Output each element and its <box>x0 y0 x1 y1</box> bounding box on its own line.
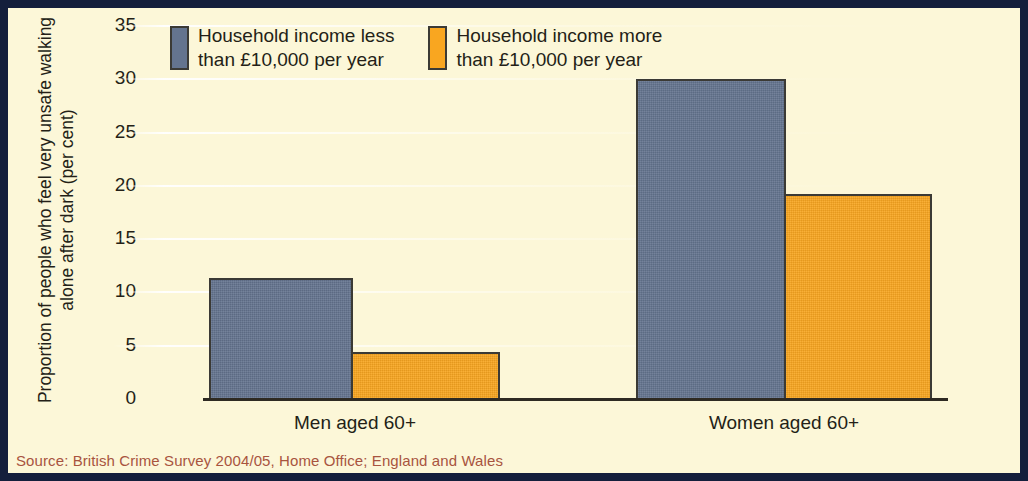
y-axis-tick-labels: 35 30 25 20 15 10 5 0 <box>66 25 136 398</box>
bar-texture <box>211 280 351 398</box>
legend-item-low-income: Household income less than £10,000 per y… <box>170 24 394 72</box>
legend-swatch-icon-high-income <box>428 26 447 70</box>
bar-men-high-income <box>351 352 500 398</box>
y-tick-20: 20 <box>66 174 136 196</box>
bar-texture <box>638 81 784 398</box>
x-tick-label-women: Women aged 60+ <box>709 412 859 434</box>
chart-legend: Household income less than £10,000 per y… <box>170 24 662 72</box>
y-tick-25: 25 <box>66 121 136 143</box>
legend-label-low-income: Household income less than £10,000 per y… <box>198 24 394 72</box>
bar-women-high-income <box>784 194 932 398</box>
source-note: Source: British Crime Survey 2004/05, Ho… <box>16 452 503 469</box>
y-tick-5: 5 <box>66 334 136 356</box>
x-axis-line <box>203 398 948 401</box>
chart-frame: Proportion of people who feel very unsaf… <box>0 0 1028 481</box>
y-tick-15: 15 <box>66 227 136 249</box>
bar-texture <box>353 354 498 398</box>
bar-texture <box>786 196 930 398</box>
y-tick-35: 35 <box>66 14 136 36</box>
y-tick-30: 30 <box>66 67 136 89</box>
chart-canvas: Proportion of people who feel very unsaf… <box>8 8 1020 473</box>
bar-women-low-income <box>636 79 786 398</box>
plot-area <box>203 25 948 398</box>
y-tick-0: 0 <box>66 387 136 409</box>
legend-label-high-income: Household income more than £10,000 per y… <box>456 24 662 72</box>
bar-group-container <box>203 25 948 398</box>
legend-item-high-income: Household income more than £10,000 per y… <box>428 24 662 72</box>
legend-swatch-icon-low-income <box>170 26 189 70</box>
x-tick-label-men: Men aged 60+ <box>294 412 416 434</box>
bar-men-low-income <box>209 278 353 398</box>
y-tick-10: 10 <box>66 280 136 302</box>
